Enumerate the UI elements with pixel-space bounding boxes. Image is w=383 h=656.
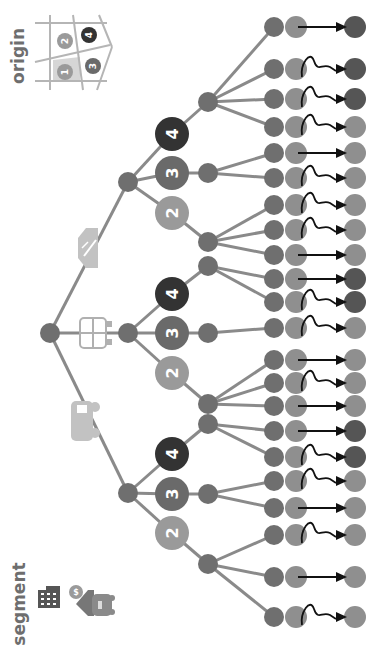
leaf-node <box>264 396 284 416</box>
leaf-node <box>264 143 284 163</box>
svg-text:1: 1 <box>60 69 70 75</box>
leaf-node <box>264 525 284 545</box>
trip-path-arrow <box>302 193 336 213</box>
train-icon <box>78 228 98 268</box>
destination-point <box>344 524 366 546</box>
leaf-node <box>264 292 284 312</box>
svg-text:4: 4 <box>84 32 94 38</box>
destination-point <box>344 497 366 519</box>
segment-node <box>198 92 218 112</box>
origin-point <box>285 116 307 138</box>
svg-text:4: 4 <box>163 288 182 299</box>
destination-point <box>344 167 366 189</box>
leaf-node <box>264 471 284 491</box>
leaf-node <box>264 373 284 393</box>
destination-point <box>344 219 366 241</box>
leaf-node <box>264 318 284 338</box>
segment-node <box>198 394 218 414</box>
segment-node <box>198 414 218 434</box>
leaf-node <box>264 17 284 37</box>
destination-point <box>344 142 366 164</box>
origin-point <box>285 291 307 313</box>
mode-node-train <box>118 172 138 192</box>
trip-path-arrow <box>302 605 336 625</box>
root-node <box>40 323 60 343</box>
svg-text:2: 2 <box>163 207 182 218</box>
destination-point <box>344 317 366 339</box>
trip-path-arrow <box>302 445 336 465</box>
svg-text:4: 4 <box>163 128 182 139</box>
trip-path-arrow <box>302 371 336 391</box>
destination-point <box>344 395 366 417</box>
destination-zone-node: 2 <box>155 516 189 550</box>
leaf-node <box>264 498 284 518</box>
origin-point <box>285 606 307 628</box>
segment-node <box>198 256 218 276</box>
destination-point <box>344 420 366 442</box>
trip-path-arrow <box>302 523 336 543</box>
svg-text:4: 4 <box>163 448 182 459</box>
destination-point <box>344 470 366 492</box>
destination-zone-node: 4 <box>155 437 189 471</box>
segment-node <box>198 232 218 252</box>
leaf-node <box>264 245 284 265</box>
svg-text:3: 3 <box>88 63 98 69</box>
origin-point <box>285 524 307 546</box>
tree-svg: 234234234 1234 $ <box>0 0 383 656</box>
office-building-icon <box>38 586 60 608</box>
mode-node-car <box>118 483 138 503</box>
svg-text:3: 3 <box>163 488 182 499</box>
destination-point <box>344 58 366 80</box>
trip-path-arrow <box>302 57 336 77</box>
destination-zone-node: 3 <box>155 477 189 511</box>
origin-zone-map-icon: 1234 <box>35 15 112 90</box>
destination-point <box>344 268 366 290</box>
origin-point <box>285 88 307 110</box>
origin-point <box>285 372 307 394</box>
origin-point <box>285 470 307 492</box>
destination-point <box>344 244 366 266</box>
segment-node <box>198 323 218 343</box>
leaf-node <box>264 89 284 109</box>
trip-path-arrow <box>302 469 336 489</box>
leaf-node <box>264 117 284 137</box>
mode-node-bus <box>118 323 138 343</box>
svg-text:3: 3 <box>163 167 182 178</box>
trip-path-arrow <box>302 115 336 135</box>
origin-point <box>285 58 307 80</box>
segment-node <box>198 554 218 574</box>
destination-point <box>344 349 366 371</box>
leaf-node <box>264 567 284 587</box>
origin-label: origin <box>8 26 28 86</box>
trip-path-arrow <box>302 87 336 107</box>
destination-point <box>344 16 366 38</box>
trip-path-arrow <box>302 316 336 336</box>
segment-label: segment <box>9 559 29 649</box>
destination-zone-node: 3 <box>155 156 189 190</box>
origin-point <box>285 219 307 241</box>
destination-point <box>344 606 366 628</box>
leaf-node <box>264 421 284 441</box>
destination-zone-node: 4 <box>155 117 189 151</box>
origin-point <box>285 317 307 339</box>
trip-path-arrow <box>302 218 336 238</box>
destination-zone-node: 2 <box>155 356 189 390</box>
trip-path-arrow <box>302 290 336 310</box>
destination-zone-node: 3 <box>155 316 189 350</box>
destination-point <box>344 372 366 394</box>
svg-text:$: $ <box>73 588 79 597</box>
destination-zone-node: 2 <box>155 196 189 230</box>
destination-zone-node: 4 <box>155 277 189 311</box>
money-home-car-icon: $ <box>69 585 115 616</box>
mode-choice-tree-diagram: 234234234 1234 $ <box>0 0 383 656</box>
leaf-node <box>264 350 284 370</box>
leaf-node <box>264 168 284 188</box>
segment-node <box>198 163 218 183</box>
svg-text:3: 3 <box>163 327 182 338</box>
destination-point <box>344 446 366 468</box>
svg-text:2: 2 <box>60 38 70 44</box>
origin-point <box>285 194 307 216</box>
leaf-node <box>264 59 284 79</box>
svg-text:2: 2 <box>163 527 182 538</box>
leaf-node <box>264 220 284 240</box>
